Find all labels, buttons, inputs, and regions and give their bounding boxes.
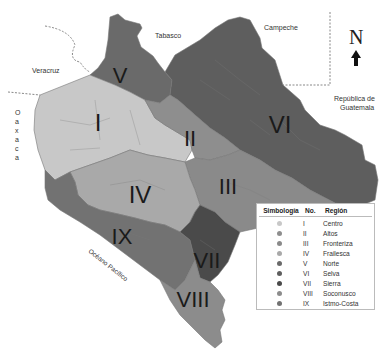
north-arrow-label: N [349, 26, 363, 48]
legend-row: VIISierra [257, 278, 374, 288]
legend-dot-icon [277, 291, 282, 296]
legend-symbol [257, 280, 301, 287]
region-label-ii: II [184, 126, 196, 151]
legend-no: V [301, 260, 323, 267]
campeche-border [283, 12, 330, 85]
legend-no: III [301, 240, 323, 247]
legend-region-name: Centro [323, 220, 374, 227]
legend-region-name: Sierra [323, 280, 374, 287]
region-label-vii: VII [194, 248, 221, 273]
region-label-iv: IV [129, 181, 152, 208]
legend-row: IIIFronteriza [257, 238, 374, 248]
legend-symbol [257, 300, 301, 307]
label-oaxaca-2: x [15, 127, 19, 134]
legend-no: IX [301, 300, 323, 307]
legend: Simbología No. Región ICentroIIAltosIIIF… [256, 203, 375, 310]
legend-no: VI [301, 270, 323, 277]
legend-no: VIII [301, 290, 323, 297]
legend-dot-icon [277, 221, 282, 226]
region-label-i: I [95, 109, 102, 136]
legend-symbol [257, 290, 301, 297]
legend-region-name: Selva [323, 270, 374, 277]
legend-dot-icon [277, 271, 282, 276]
legend-row: VNorte [257, 258, 374, 268]
region-label-ix: IX [112, 224, 133, 249]
legend-row: IVFrailesca [257, 248, 374, 258]
north-arrow: N [349, 26, 363, 66]
legend-no: I [301, 220, 323, 227]
legend-dot-icon [277, 301, 282, 306]
label-oaxaca-4: c [15, 145, 19, 152]
region-label-viii: VIII [176, 287, 209, 312]
legend-region-name: Altos [323, 230, 374, 237]
region-label-v: V [113, 63, 128, 88]
legend-symbol [257, 230, 301, 237]
label-campeche: Campeche [264, 24, 298, 32]
legend-region-name: Norte [323, 260, 374, 267]
legend-symbol [257, 260, 301, 267]
label-oaxaca: O a x a c a [15, 109, 21, 161]
label-guatemala-1: República de [334, 95, 375, 103]
label-veracruz: Veracruz [32, 67, 60, 74]
label-oaxaca-0: O [15, 109, 21, 116]
legend-row: IXIstmo-Costa [257, 298, 374, 308]
legend-symbol [257, 220, 301, 227]
label-guatemala-2: Guatemala [340, 104, 374, 111]
legend-dot-icon [277, 241, 282, 246]
legend-symbol [257, 240, 301, 247]
oaxaca-border [8, 92, 40, 95]
legend-region-name: Fronteriza [323, 240, 374, 247]
label-tabasco: Tabasco [155, 32, 181, 39]
legend-row: IIAltos [257, 228, 374, 238]
label-oaxaca-5: a [15, 154, 19, 161]
legend-no: II [301, 230, 323, 237]
legend-dot-icon [277, 261, 282, 266]
legend-symbol [257, 250, 301, 257]
legend-dot-icon [277, 251, 282, 256]
legend-dot-icon [277, 231, 282, 236]
legend-row: ICentro [257, 218, 374, 228]
legend-no: IV [301, 250, 323, 257]
legend-region-name: Frailesca [323, 250, 374, 257]
legend-header: Simbología No. Región [259, 204, 372, 217]
legend-row: VISelva [257, 268, 374, 278]
region-label-iii: III [219, 174, 237, 199]
region-label-vi: VI [269, 111, 292, 138]
legend-region-name: Soconusco [323, 290, 374, 297]
legend-dot-icon [277, 281, 282, 286]
label-oaxaca-1: a [15, 118, 19, 125]
legend-no: VII [301, 280, 323, 287]
legend-region-name: Istmo-Costa [323, 300, 374, 307]
legend-header-no: No. [303, 207, 325, 214]
legend-header-symbol: Simbología [259, 207, 303, 214]
legend-row: VIIISoconusco [257, 288, 374, 298]
veracruz-border [45, 26, 90, 72]
legend-symbol [257, 270, 301, 277]
label-oaxaca-3: a [15, 136, 19, 143]
legend-header-region: Región [325, 207, 372, 214]
north-arrow-icon [351, 50, 361, 66]
legend-rows: ICentroIIAltosIIIFronterizaIVFrailescaVN… [257, 217, 374, 308]
